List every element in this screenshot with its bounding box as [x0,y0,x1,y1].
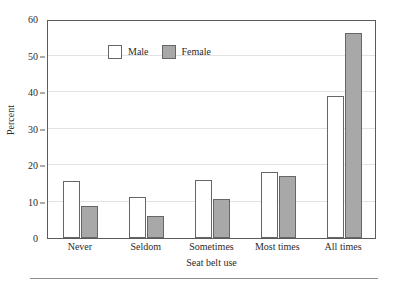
legend-entry-female: Female [162,45,211,59]
x-tick-label: Sometimes [189,241,233,253]
bar-group [245,21,311,238]
plot-area: MaleFemale [47,20,376,239]
x-axis: NeverSeldomSometimesMost timesAll times [47,241,376,257]
bar-female-all-times [345,33,362,238]
bar-female-most-times [279,176,296,238]
bar-male-never [63,181,80,238]
y-tick-mark [40,56,45,57]
x-tick-label: Most times [255,241,300,253]
x-tick-label: Seldom [130,241,161,253]
y-tick-label: 60 [28,15,38,25]
y-tick-mark [40,166,45,167]
legend-label: Male [128,47,149,57]
footer-rule [30,278,378,279]
bar-female-never [81,206,98,238]
y-tick-label: 50 [28,52,38,62]
chart-legend: MaleFemale [108,45,211,59]
bar-female-sometimes [213,199,230,238]
y-tick-mark [40,202,45,203]
x-tick-label: Never [68,241,92,253]
bars-layer [48,21,375,238]
seat-belt-use-bar-chart: Percent 0102030405060 MaleFemale NeverSe… [0,0,399,290]
bar-female-seldom [147,216,164,238]
legend-entry-male: Male [108,45,149,59]
bar-male-all-times [327,96,344,238]
x-axis-title: Seat belt use [47,257,376,269]
bar-male-seldom [129,197,146,238]
y-tick-label: 40 [28,88,38,98]
y-tick-label: 20 [28,161,38,171]
y-tick-mark [40,129,45,130]
y-tick-label: 10 [28,198,38,208]
y-axis: 0102030405060 [0,20,45,239]
bar-male-most-times [261,172,278,238]
y-tick-label: 30 [28,125,38,135]
bar-male-sometimes [195,180,212,238]
bar-group [311,21,377,238]
y-tick-label: 0 [33,234,38,244]
legend-label: Female [182,47,211,57]
bar-group [48,21,114,238]
legend-swatch-male [108,45,122,59]
x-tick-label: All times [325,241,362,253]
legend-swatch-female [162,45,176,59]
y-tick-mark [40,93,45,94]
